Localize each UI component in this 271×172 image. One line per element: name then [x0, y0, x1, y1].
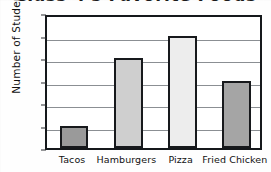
bar-pizza [168, 36, 197, 149]
x-tick-label: Hamburgers [97, 154, 157, 165]
y-tick-mark [41, 60, 46, 61]
y-tick-mark [41, 37, 46, 38]
gridline [47, 62, 260, 63]
gridline [47, 40, 260, 41]
bar-fried-chicken [222, 81, 251, 149]
x-tick-label: Tacos [59, 154, 86, 165]
bar-tacos [60, 126, 89, 149]
y-tick-mark [41, 82, 46, 83]
x-tick-label: Fried Chicken [202, 154, 267, 165]
bar-hamburgers [114, 58, 143, 148]
y-tick-mark [41, 15, 46, 16]
bar-chart: Class 4's Favorite Foods Number of Stude… [0, 0, 271, 172]
chart-title: Class 4's Favorite Foods [0, 0, 271, 5]
y-tick-mark [41, 150, 46, 151]
y-axis-title: Number of Students [10, 0, 22, 99]
x-tick-label: Pizza [168, 154, 192, 165]
plot-area [45, 15, 262, 150]
y-tick-mark [41, 105, 46, 106]
y-tick-mark [41, 127, 46, 128]
